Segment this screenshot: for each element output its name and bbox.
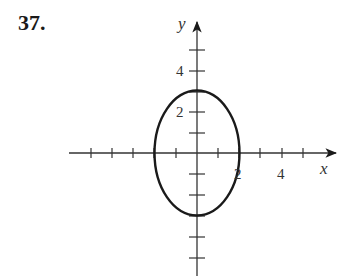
y-tick-label-4: 4 (176, 63, 184, 79)
x-axis-label: x (319, 159, 328, 178)
x-tick-label-2: 2 (234, 166, 242, 182)
y-axis-label: y (176, 14, 186, 33)
x-tick-label-4: 4 (277, 166, 285, 182)
ellipse-graph: 2 4 2 4 x y (0, 0, 357, 276)
y-tick-label-2: 2 (176, 104, 184, 120)
